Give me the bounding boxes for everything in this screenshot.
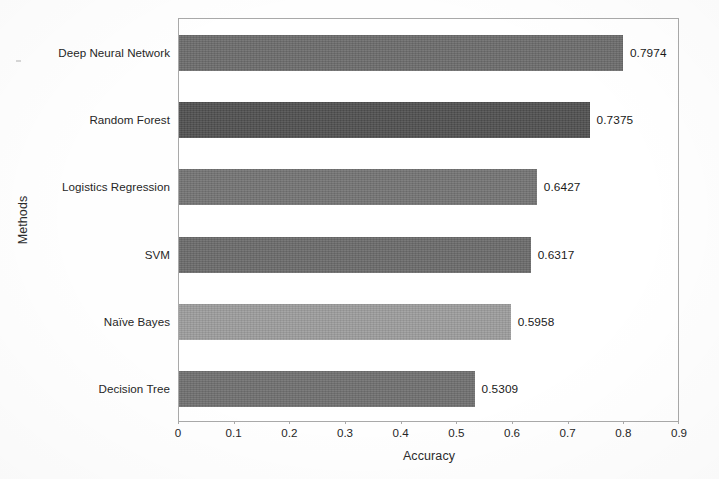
- x-tick-label: 0.2: [281, 426, 297, 439]
- bar-value-label: 0.6317: [538, 248, 575, 262]
- bar-row: 0.7974: [179, 35, 678, 71]
- category-label: Random Forest: [89, 113, 170, 126]
- x-tick-label: 0.7: [560, 426, 576, 439]
- x-axis-ticks: 00.10.20.30.40.50.60.70.80.9: [178, 424, 679, 446]
- bar-value-label: 0.6427: [544, 180, 581, 194]
- bar-value-label: 0.7974: [630, 46, 667, 60]
- category-label: Logistics Regression: [62, 180, 170, 193]
- bar: [179, 35, 623, 71]
- y-axis-title-text: Methods: [16, 196, 30, 245]
- bar-row: 0.5309: [179, 371, 678, 407]
- category-label: Naïve Bayes: [104, 315, 170, 328]
- bar-value-label: 0.5309: [482, 382, 519, 396]
- x-tick-mark: [178, 421, 179, 424]
- bar-row: 0.6317: [179, 237, 678, 273]
- x-tick-label: 0.3: [337, 426, 353, 439]
- bar-row: 0.6427: [179, 169, 678, 205]
- x-tick-mark: [568, 421, 569, 424]
- x-tick-label: 0.8: [615, 426, 631, 439]
- bar: [179, 169, 537, 205]
- category-label: SVM: [145, 247, 170, 260]
- x-tick-mark: [678, 421, 679, 424]
- bar: [179, 102, 590, 138]
- bar-value-label: 0.7375: [597, 113, 634, 127]
- x-tick-mark: [401, 421, 402, 424]
- y-axis-category-labels: Deep Neural NetworkRandom ForestLogistic…: [30, 18, 174, 422]
- x-tick-mark: [345, 421, 346, 424]
- x-tick-mark: [623, 421, 624, 424]
- scan-speck: [16, 60, 21, 62]
- x-tick-mark: [289, 421, 290, 424]
- bar-chart-figure: Methods Deep Neural NetworkRandom Forest…: [0, 0, 719, 479]
- x-tick-mark: [512, 421, 513, 424]
- x-tick-mark: [234, 421, 235, 424]
- x-axis-title-text: Accuracy: [403, 449, 455, 463]
- x-tick-label: 0.9: [671, 426, 687, 439]
- x-tick-label: 0: [175, 426, 181, 439]
- x-axis-title: Accuracy: [178, 449, 680, 463]
- bar: [179, 371, 475, 407]
- x-tick-label: 0.1: [226, 426, 242, 439]
- bar: [179, 237, 531, 273]
- category-label: Deep Neural Network: [58, 45, 170, 58]
- x-tick-mark: [456, 421, 457, 424]
- bar-row: 0.7375: [179, 102, 678, 138]
- x-tick-label: 0.5: [448, 426, 464, 439]
- plot-area: 0.79740.73750.64270.63170.59580.5309: [178, 18, 679, 422]
- bar-row: 0.5958: [179, 304, 678, 340]
- bar: [179, 304, 511, 340]
- bar-value-label: 0.5958: [518, 315, 555, 329]
- x-tick-label: 0.6: [504, 426, 520, 439]
- category-label: Decision Tree: [98, 382, 170, 395]
- x-tick-label: 0.4: [393, 426, 409, 439]
